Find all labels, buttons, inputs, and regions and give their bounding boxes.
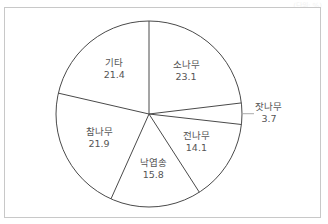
slice-name: 기타 <box>105 57 123 68</box>
slice-value: 21.9 <box>88 138 109 149</box>
slice-label-0: 소나무23.1 <box>173 59 200 82</box>
slice-name: 소나무 <box>173 59 200 70</box>
slice-value: 23.1 <box>175 71 196 82</box>
slice-label-5: 기타21.4 <box>104 57 125 80</box>
slice-label-3: 낙엽송15.8 <box>140 157 167 180</box>
slice-label-1: 잣나무3.7 <box>255 101 282 124</box>
slice-name: 잣나무 <box>255 101 282 112</box>
pie-chart: 소나무23.1잣나무3.7전나무14.1낙엽송15.8참나무21.9기타21.4 <box>0 0 328 224</box>
slice-name: 전나무 <box>183 130 210 141</box>
slice-value: 21.4 <box>104 69 125 80</box>
slice-label-4: 참나무21.9 <box>86 126 113 149</box>
slice-name: 참나무 <box>86 126 113 137</box>
slice-label-2: 전나무14.1 <box>183 130 210 153</box>
slice-value: 14.1 <box>186 142 207 153</box>
slice-value: 3.7 <box>261 113 276 124</box>
slice-name: 낙엽송 <box>140 157 167 168</box>
slice-value: 15.8 <box>143 169 164 180</box>
